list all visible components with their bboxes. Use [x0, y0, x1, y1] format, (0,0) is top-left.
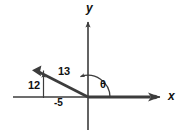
y-axis-label: y — [86, 2, 93, 14]
arrow-upleft-icon — [32, 65, 41, 76]
opposite-side-label: 12 — [28, 80, 40, 91]
trigonometry-diagram: y x 13 12 -5 θ — [0, 0, 184, 136]
coordinate-plane-svg — [0, 0, 184, 136]
adjacent-side-label: -5 — [54, 98, 63, 108]
theta-angle-label: θ — [100, 79, 106, 90]
hypotenuse-label: 13 — [58, 66, 70, 77]
x-axis-label: x — [168, 90, 175, 102]
